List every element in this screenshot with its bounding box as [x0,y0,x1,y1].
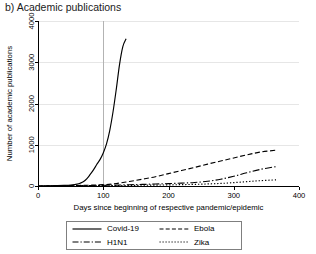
tick-labels-group: 010002000300040000100200300400 [27,13,306,200]
legend-grid: Covid-19EbolaH1N1Zika [67,222,241,249]
legend-item-ebola[interactable]: Ebola [154,224,241,233]
series-line-covid-19 [38,39,126,186]
y-tick-label-0: 0 [27,184,36,188]
y-tick-label-3000: 3000 [27,54,36,71]
legend-label-covid-19: Covid-19 [107,224,139,233]
axes-group [38,21,299,187]
series-line-ebola [38,150,276,186]
x-tick-label-100: 100 [97,191,110,200]
line-chart-svg: 010002000300040000100200300400 Number of… [0,0,316,254]
legend-swatch-zika-icon [159,238,189,246]
chart-legend: Covid-19EbolaH1N1Zika [66,221,242,250]
legend-swatch-h1n1-icon [72,238,102,246]
y-tick-label-2000: 2000 [27,95,36,112]
legend-label-zika: Zika [194,238,209,247]
legend-swatch-covid-19-icon [72,225,102,233]
x-axis-title: Days since beginning of respective pande… [74,203,264,212]
tick-marks-group [35,22,300,191]
y-tick-label-4000: 4000 [27,13,36,30]
series-lines-group [38,39,276,186]
chart-plot-area: 010002000300040000100200300400 Number of… [0,0,316,254]
x-tick-label-300: 300 [227,191,240,200]
legend-swatch-ebola-icon [159,225,189,233]
legend-item-covid-19[interactable]: Covid-19 [67,224,154,233]
legend-label-h1n1: H1N1 [107,238,127,247]
x-tick-label-200: 200 [162,191,175,200]
y-axis-title: Number of academic publications [5,46,14,161]
academic-publications-figure: b) Academic publications 010002000300040… [0,0,316,254]
legend-item-h1n1[interactable]: H1N1 [67,238,154,247]
legend-label-ebola: Ebola [194,224,214,233]
series-line-h1n1 [38,167,276,186]
legend-item-zika[interactable]: Zika [154,238,241,247]
y-tick-label-1000: 1000 [27,136,36,153]
axis-titles-group: Number of academic publicationsDays sinc… [5,46,264,212]
x-tick-label-0: 0 [36,191,40,200]
x-tick-label-400: 400 [293,191,306,200]
gridlines-group [38,22,299,146]
